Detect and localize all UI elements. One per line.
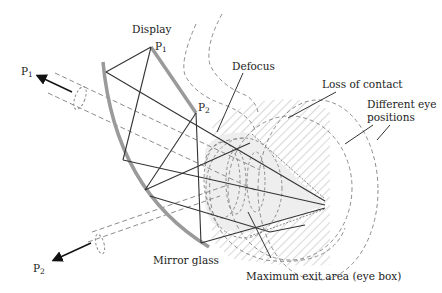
- diagram-canvas: Display Defocus Loss of contact Differen…: [0, 0, 442, 293]
- leader-eye-positions-1: [345, 125, 373, 144]
- label-different-eye-2: positions: [367, 111, 415, 123]
- point-p2-arrow: P2: [33, 262, 45, 276]
- leader-eye-positions-2: [377, 125, 390, 140]
- point-p1-arrow: P1: [21, 65, 33, 79]
- label-defocus: Defocus: [232, 60, 275, 72]
- label-display: Display: [132, 23, 172, 35]
- point-p1-display: P1: [155, 40, 167, 54]
- label-loss-of-contact: Loss of contact: [322, 78, 403, 90]
- point-p2-display: P2: [198, 101, 210, 115]
- label-different-eye-1: Different eye: [367, 98, 436, 110]
- label-max-exit-area: Maximum exit area (eye box): [246, 270, 401, 282]
- arrow-p1: [38, 76, 72, 92]
- label-mirror-glass: Mirror glass: [153, 254, 219, 266]
- hud-optics-diagram: Display Defocus Loss of contact Differen…: [0, 0, 442, 293]
- arrow-p2: [54, 243, 91, 260]
- mirror-glass: [103, 62, 209, 247]
